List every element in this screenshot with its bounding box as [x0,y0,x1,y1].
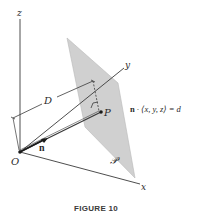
vector-OP-inner [20,111,99,150]
distance-extension-left [13,118,19,150]
plane-P [67,38,135,178]
point-P [99,110,103,114]
x-axis-label: x [141,182,146,192]
plane-distance-figure: z y x O D n P 𝒫 n · ⟨x, y, z⟩ = d FIGURE… [0,0,200,224]
plane-equation: n · ⟨x, y, z⟩ = d [130,104,182,114]
origin-point [18,150,22,154]
figure-caption: FIGURE 10 [74,204,118,213]
distance-label: D [43,95,52,106]
point-P-label: P [103,107,111,118]
y-axis-label: y [124,60,131,70]
z-axis-label: z [16,8,22,18]
equation-rest: · ⟨x, y, z⟩ = d [135,104,182,114]
origin-label: O [11,156,19,167]
normal-vector-label: n [39,142,45,153]
distance-dimension-line-left [13,104,42,118]
